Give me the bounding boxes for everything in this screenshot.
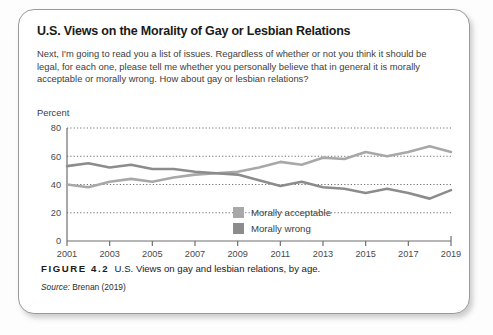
y-tick-label-80: 80 <box>51 123 61 133</box>
survey-question-text: Next, I'm going to read you a list of is… <box>37 48 449 86</box>
x-tick-label-2007: 2007 <box>185 249 205 259</box>
x-tick-label-2013: 2013 <box>313 249 333 259</box>
y-tick-label-40: 40 <box>51 180 61 190</box>
figure-number: FIGURE 4.2 <box>41 263 109 274</box>
figure-source: Source: Brenan (2019) <box>41 282 126 292</box>
page-root: U.S. Views on the Morality of Gay or Les… <box>0 0 493 335</box>
source-value: Brenan (2019) <box>72 282 126 292</box>
figure-caption: FIGURE 4.2 U.S. Views on gay and lesbian… <box>41 263 320 274</box>
figure-caption-text: U.S. Views on gay and lesbian relations,… <box>115 263 321 274</box>
legend-swatch-acceptable <box>233 207 244 218</box>
x-tick-label-2017: 2017 <box>398 249 418 259</box>
y-tick-label-20: 20 <box>51 208 61 218</box>
legend-swatch-wrong <box>233 223 244 234</box>
x-tick-label-2015: 2015 <box>355 249 375 259</box>
chart-title: U.S. Views on the Morality of Gay or Les… <box>37 24 350 38</box>
legend-label-wrong: Morally wrong <box>251 223 311 234</box>
y-axis-unit-label: Percent <box>37 107 69 118</box>
y-tick-label-60: 60 <box>51 152 61 162</box>
x-tick-label-2019: 2019 <box>441 249 461 259</box>
series-line-wrong <box>67 163 451 198</box>
legend-label-acceptable: Morally acceptable <box>251 207 331 218</box>
x-tick-label-2003: 2003 <box>99 249 119 259</box>
x-tick-label-2001: 2001 <box>57 249 77 259</box>
x-tick-label-2011: 2011 <box>270 249 290 259</box>
source-label: Source: <box>41 282 70 292</box>
figure-card: U.S. Views on the Morality of Gay or Les… <box>18 9 470 314</box>
series-line-acceptable <box>67 146 451 187</box>
y-tick-label-0: 0 <box>56 236 61 246</box>
x-tick-label-2005: 2005 <box>142 249 162 259</box>
x-tick-label-2009: 2009 <box>227 249 247 259</box>
